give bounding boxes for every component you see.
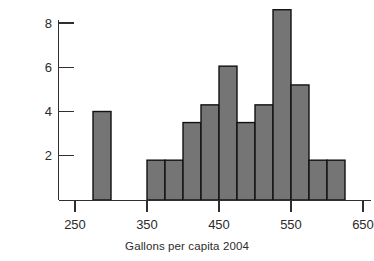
y-tick-label: 6	[45, 60, 52, 75]
histogram-bar	[147, 160, 165, 200]
histogram-figure: # of States 2468 250350450550650 Gallons…	[0, 0, 374, 261]
histogram-bar	[183, 123, 201, 200]
x-tick-label: 450	[208, 217, 230, 232]
bars-group	[93, 10, 345, 200]
histogram-bar	[219, 66, 237, 200]
x-tick-label: 650	[352, 217, 374, 232]
y-tick-label: 4	[45, 104, 52, 119]
histogram-bar	[255, 105, 273, 200]
y-tick-label: 2	[45, 148, 52, 163]
x-tick-label: 250	[64, 217, 86, 232]
histogram-bar	[201, 105, 219, 200]
histogram-bar	[237, 123, 255, 200]
histogram-bar	[165, 160, 183, 200]
x-tick-label: 550	[280, 217, 302, 232]
histogram-bar	[273, 10, 291, 200]
x-tick-label: 350	[136, 217, 158, 232]
histogram-plot-area: 2468 250350450550650	[0, 0, 374, 261]
histogram-bar	[291, 85, 309, 200]
histogram-bar	[327, 160, 345, 200]
x-ticks-group: 250350450550650	[64, 201, 374, 233]
x-axis-title: Gallons per capita 2004	[0, 240, 374, 252]
histogram-bar	[93, 112, 111, 201]
y-ticks-group: 2468	[45, 16, 74, 164]
histogram-bar	[309, 160, 327, 200]
y-tick-label: 8	[45, 16, 52, 31]
